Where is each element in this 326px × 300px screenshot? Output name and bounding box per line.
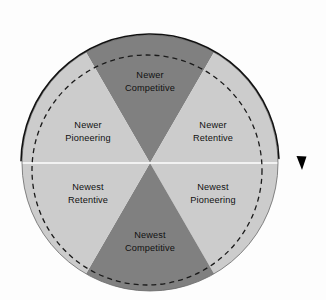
segment-label-line2: Retentive (193, 133, 233, 143)
segment-label-line2: Competitive (125, 83, 175, 93)
segment-label-line1: Newer (136, 70, 163, 80)
segment-label-line2: Retentive (68, 195, 108, 205)
diagram-canvas: NewerCompetitiveNewerRetentiveNewestPion… (0, 0, 326, 300)
segment-label-line1: Newest (197, 182, 229, 192)
segment-label-line2: Competitive (125, 243, 175, 253)
segment-label-line1: Newer (74, 120, 101, 130)
segment-label-line2: Pioneering (190, 195, 235, 205)
segment-label-line1: Newest (134, 230, 166, 240)
segment-label-line1: Newest (72, 182, 104, 192)
segment-label-line2: Pioneering (65, 133, 110, 143)
product-life-cycle-wheel: NewerCompetitiveNewerRetentiveNewestPion… (0, 0, 326, 300)
segment-label-line1: Newer (199, 120, 226, 130)
